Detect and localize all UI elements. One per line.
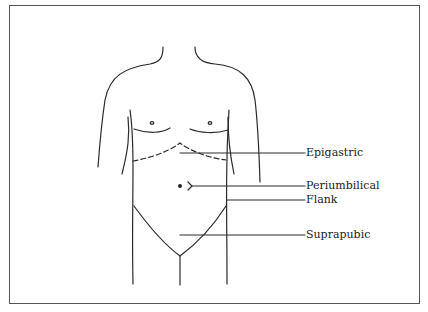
right-pectoral-line (190, 129, 228, 133)
left-pectoral-line (134, 128, 170, 132)
label-epigastric: Epigastric (306, 147, 363, 159)
right-nipple-icon (208, 122, 212, 125)
left-torso-side (130, 110, 133, 284)
label-periumbilical: Periumbilical (306, 180, 380, 192)
left-inner-arm-line (122, 117, 129, 174)
torso-diagram (0, 0, 428, 312)
left-nipple-icon (150, 122, 154, 125)
left-neck-shoulder-arm-outline (98, 47, 163, 167)
right-inner-arm-line (228, 117, 234, 174)
label-flank: Flank (306, 194, 337, 206)
costal-margin-dashed (133, 143, 226, 161)
navel-dot-icon (179, 185, 182, 188)
inguinal-v-line (134, 206, 226, 256)
label-suprapubic: Suprapubic (306, 229, 370, 241)
